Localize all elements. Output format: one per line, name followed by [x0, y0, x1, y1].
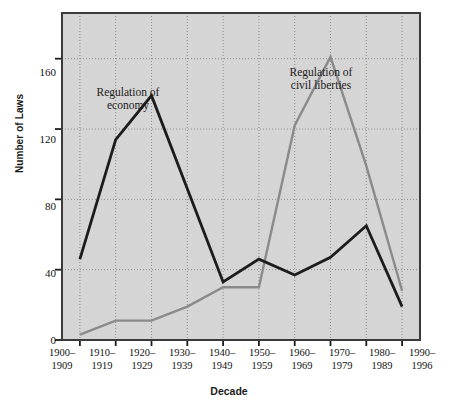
plot-background	[62, 13, 420, 340]
chart-figure: Number of Laws Decade 160 120 80 40 0 19…	[0, 0, 458, 408]
annotation-regulation-of-economy: Regulation of economy	[76, 86, 180, 112]
y-tick-label-40: 40	[26, 267, 56, 279]
y-tick-label-80: 80	[26, 200, 56, 212]
annotation-line1: Regulation of	[269, 66, 373, 79]
x-axis-title: Decade	[0, 385, 458, 397]
annotation-line1: Regulation of	[76, 86, 180, 99]
x-tick-line1: 1990–	[399, 347, 445, 360]
annotation-regulation-of-civil-liberties: Regulation of civil liberties	[269, 66, 373, 92]
y-tick-label-120: 120	[26, 133, 56, 145]
y-tick-label-160: 160	[26, 66, 56, 78]
x-tick-label-1990-1996: 1990– 1996	[399, 347, 445, 372]
x-tick-line2: 1996	[399, 360, 445, 373]
annotation-line2: civil liberties	[269, 79, 373, 92]
y-tick-label-0: 0	[26, 334, 56, 346]
y-axis-title: Number of Laws	[14, 79, 25, 189]
annotation-line2: economy	[76, 99, 180, 112]
